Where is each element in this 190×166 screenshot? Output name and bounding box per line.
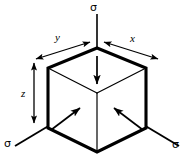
sigma-label-top: σ	[90, 2, 97, 13]
cube-diagram-canvas	[0, 0, 190, 166]
stress-cube-figure: σ σ σ y x z	[0, 0, 190, 166]
axis-label-x: x	[130, 33, 135, 44]
axis-label-y: y	[55, 32, 60, 43]
axis-label-z: z	[21, 88, 25, 99]
sigma-label-bottom-left: σ	[4, 138, 11, 149]
sigma-label-bottom-right: σ	[172, 139, 179, 150]
